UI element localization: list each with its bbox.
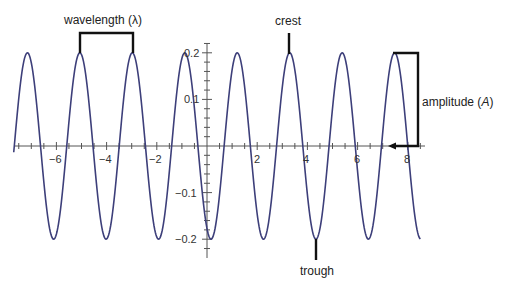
amplitude-arrowhead-icon (388, 143, 396, 150)
amplitude-label-prefix: amplitude ( (422, 95, 481, 109)
crest-label: crest (275, 14, 301, 28)
x-tick-label: −4 (99, 153, 112, 165)
trough-label: trough (300, 264, 334, 278)
y-tick-label: 0.2 (184, 47, 199, 59)
wavelength-bracket (80, 33, 133, 53)
x-tick-label: 2 (254, 153, 260, 165)
x-tick-label: −2 (149, 153, 162, 165)
y-tick-label: −0.1 (175, 187, 197, 199)
x-tick-label: 6 (354, 153, 360, 165)
y-tick-label: 0.1 (184, 93, 199, 105)
amplitude-bracket (393, 53, 418, 146)
amplitude-label-suffix: ) (489, 95, 493, 109)
amplitude-label: amplitude (A) (422, 95, 493, 109)
wavelength-label: wavelength (λ) (64, 13, 142, 27)
x-axis (15, 142, 425, 150)
x-tick-label: −6 (49, 153, 62, 165)
plot-canvas (0, 0, 512, 291)
wave-diagram: wavelength (λ) crest trough amplitude (A… (0, 0, 512, 291)
x-tick-label: 8 (404, 153, 410, 165)
y-tick-label: −0.2 (175, 233, 197, 245)
x-tick-label: 4 (303, 153, 309, 165)
